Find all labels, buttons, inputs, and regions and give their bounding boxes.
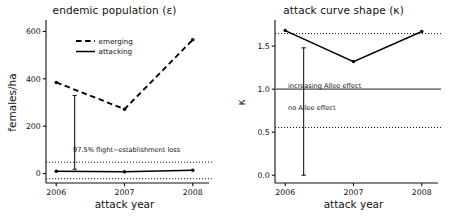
x-tick-label: 2008 [183, 188, 203, 197]
y-axis-label: κ [235, 99, 247, 105]
y-axis-label: females/ha [6, 73, 18, 131]
figure-root: endemic population (ε) 02004006002006200… [0, 0, 459, 221]
series-point-kappa [420, 30, 424, 34]
series-point-attacking [191, 168, 195, 172]
y-tick-label: 400 [26, 75, 41, 84]
panel-endemic-population: endemic population (ε) 02004006002006200… [0, 0, 229, 221]
series-point-emerging [123, 107, 127, 111]
x-axis-label: attack year [95, 198, 155, 210]
series-point-kappa [283, 29, 287, 33]
y-tick-label: 0 [36, 169, 41, 178]
y-tick-label: 0.5 [257, 128, 269, 137]
series-line-kappa [285, 31, 422, 62]
y-tick-label: 1.5 [257, 42, 269, 51]
y-tick-label: 200 [26, 122, 41, 131]
y-tick-label: 1.0 [257, 85, 269, 94]
annotation-label-flight-establishment-loss: 97.5% flight−establishment loss [73, 146, 181, 154]
series-point-attacking [54, 169, 58, 173]
series-point-emerging [54, 81, 58, 85]
annotation-label-increasing-allee-effect: increasing Allee effect [288, 82, 362, 90]
axes [275, 20, 438, 183]
y-tick-label: 0.0 [257, 171, 269, 180]
legend-label-emerging: emerging [99, 37, 133, 46]
x-tick-label: 2006 [275, 188, 295, 197]
series-point-emerging [191, 38, 195, 42]
series-point-kappa [352, 60, 356, 64]
x-tick-label: 2006 [46, 188, 66, 197]
plot-endemic-population: 0200400600200620072008attack yearfemales… [0, 0, 229, 221]
panel-attack-curve-shape: attack curve shape (κ) 0.00.51.01.520062… [229, 0, 458, 221]
x-tick-label: 2008 [412, 188, 432, 197]
series-point-attacking [123, 170, 127, 174]
legend-label-attacking: attacking [99, 47, 133, 56]
annotation-label-no-allee-effect: no Allee effect [288, 104, 336, 112]
x-tick-label: 2007 [344, 188, 364, 197]
plot-attack-curve-shape: 0.00.51.01.5200620072008attack yearκincr… [229, 0, 458, 221]
x-axis-label: attack year [324, 198, 384, 210]
y-tick-label: 600 [26, 27, 41, 36]
x-tick-label: 2007 [115, 188, 135, 197]
